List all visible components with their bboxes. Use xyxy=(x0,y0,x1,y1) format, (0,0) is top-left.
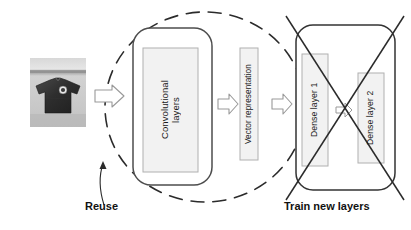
dense-layer-1-label: Dense layer 1 xyxy=(302,54,328,166)
convolutional-layers-label: Convolutional layers xyxy=(143,48,198,172)
train-new-layers-caption: Train new layers xyxy=(284,200,370,212)
vector-representation-label: Vector representation xyxy=(240,48,258,160)
transfer-learning-diagram: Convolutional layers Vector representati… xyxy=(0,0,411,230)
reuse-pointer-arrowhead xyxy=(100,161,107,169)
reuse-caption: Reuse xyxy=(85,200,118,212)
diagram-vector-layer xyxy=(0,0,411,230)
reuse-pointer-arrow xyxy=(100,164,104,205)
arrow-conv-to-vector xyxy=(218,94,238,114)
arrow-photo-to-conv xyxy=(95,85,124,107)
arrow-vector-to-dense xyxy=(272,94,292,114)
dense-layer-2-label: Dense layer 2 xyxy=(358,73,384,163)
